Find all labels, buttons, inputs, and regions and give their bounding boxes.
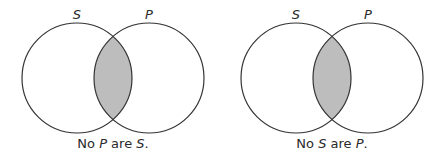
venn-diagrams: S P No P are S. S P No S are P. [0, 0, 443, 155]
venn-diagram-2: S P No S are P. [241, 7, 423, 151]
caption: No P are S. [77, 136, 148, 151]
label-p: P [364, 7, 372, 22]
caption: No S are P. [296, 136, 367, 151]
label-s: S [292, 7, 300, 22]
venn-diagram-1: S P No P are S. [22, 7, 204, 151]
label-p: P [145, 7, 153, 22]
label-s: S [73, 7, 81, 22]
